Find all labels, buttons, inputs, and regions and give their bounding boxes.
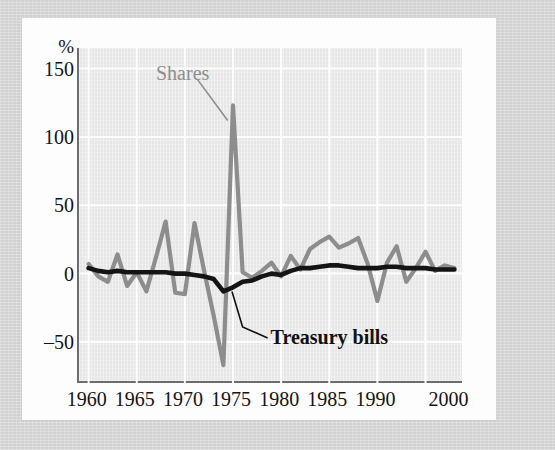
annotation-shares: Shares	[156, 63, 209, 83]
x-tick-label-1960: 1960	[62, 389, 112, 409]
y-tick-label-150: 150	[26, 59, 74, 79]
x-axis-labels: 19601965197019751980198519902000	[77, 389, 467, 419]
leader-line-treasury-bills	[232, 291, 268, 338]
x-tick-label-2000: 2000	[424, 389, 474, 409]
x-tick-label-1965: 1965	[110, 389, 160, 409]
leader-line-shares	[197, 79, 227, 120]
y-tick-label-50: 50	[26, 195, 74, 215]
x-tick-label-1990: 1990	[350, 389, 400, 409]
x-tick-label-1980: 1980	[254, 389, 304, 409]
plot-area: Shares Treasury bills	[77, 48, 462, 383]
y-tick-label-0: 0	[26, 264, 74, 284]
x-tick-label-1975: 1975	[206, 389, 256, 409]
y-tick-label--50: –50	[26, 332, 74, 352]
y-axis-unit-label: %	[26, 37, 74, 56]
page-background: % –50050100150 Shares Treasury bills 196…	[0, 0, 555, 450]
chart-figure: % –50050100150 Shares Treasury bills 196…	[22, 18, 496, 420]
y-tick-label-100: 100	[26, 127, 74, 147]
x-tick-label-1985: 1985	[302, 389, 352, 409]
x-tick-label-1970: 1970	[158, 389, 208, 409]
annotation-treasury-bills: Treasury bills	[271, 327, 389, 347]
figure-card: % –50050100150 Shares Treasury bills 196…	[22, 18, 496, 420]
y-axis-labels: % –50050100150	[22, 18, 74, 420]
